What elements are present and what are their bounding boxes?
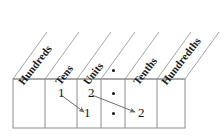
- cell-decimal-point-bottom: [112, 112, 115, 115]
- cell-tenths-bottom: 2: [138, 105, 145, 121]
- arrow-units-to-tenths: [92, 95, 135, 112]
- header-decimal-point-icon: [112, 69, 115, 72]
- cell-units-bottom: 1: [84, 105, 91, 121]
- place-value-chart: Hundreds Tens Units Tenths Hundredths 1 …: [0, 0, 224, 139]
- cell-decimal-point-top: [112, 92, 115, 95]
- table-body-outline: [13, 79, 185, 128]
- cell-tens-top: 1: [58, 85, 65, 101]
- cell-units-top: 2: [88, 85, 95, 101]
